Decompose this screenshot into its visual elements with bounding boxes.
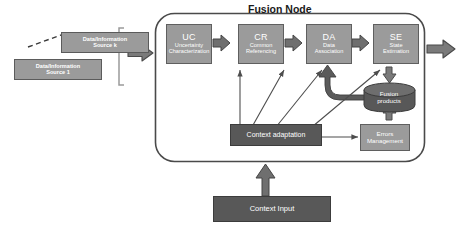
diagram-canvas: Fusion Node Data/Information Source k Da… [0, 0, 459, 237]
process-cr-desc-line2: Referencing [244, 49, 278, 55]
process-se-desc-line2: Estimation [381, 49, 411, 55]
errors-management-line2: Management [367, 138, 403, 145]
arrow-context-input-to-fusionnode [256, 164, 275, 196]
data-source-1: Data/Information Source 1 [14, 59, 102, 80]
arrow-se-to-output [427, 40, 455, 58]
fusion-products-label: Fusion products [367, 90, 411, 104]
source-stack-dashed-line [28, 35, 61, 47]
arrow-cr-to-da [285, 35, 302, 51]
context-adaptation-box: Context adaptation [230, 124, 322, 146]
process-uc-desc-line2: Characterization [167, 49, 212, 55]
data-source-k-line2: Source k [93, 43, 117, 49]
data-source-1-line2: Source 1 [46, 70, 70, 76]
process-cr: CR Common Referencing [238, 24, 284, 64]
fusion-products-line1: Fusion [367, 90, 411, 97]
process-cr-code: CR [254, 33, 267, 42]
arrow-uc-to-cr [213, 35, 230, 51]
arrow-da-to-se [352, 35, 369, 51]
fusion-node-title: Fusion Node [248, 3, 312, 15]
arrow-se-to-fusion-products [383, 67, 396, 83]
context-input-box: Context Input [213, 196, 331, 222]
process-uc: UC Uncertainty Characterization [166, 24, 212, 64]
process-se-code: SE [390, 33, 402, 42]
data-source-k: Data/Information Source k [61, 32, 149, 53]
process-uc-code: UC [182, 33, 195, 42]
arrow-feedback-products-to-da [319, 65, 365, 100]
fusion-products-line2: products [367, 97, 411, 104]
process-se: SE State Estimation [373, 24, 419, 64]
process-da-code: DA [323, 33, 336, 42]
process-da: DA Data Association [306, 24, 352, 64]
errors-management-box: Errors Management [360, 124, 410, 151]
process-da-desc-line2: Association [313, 49, 346, 55]
